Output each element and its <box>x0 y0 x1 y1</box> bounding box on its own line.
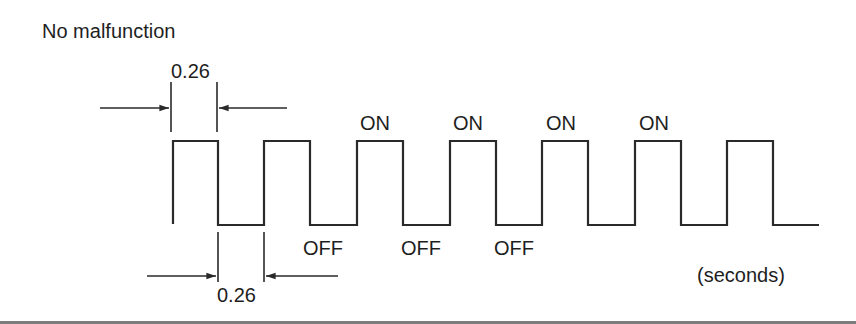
on-label: ON <box>639 113 669 133</box>
units-label: (seconds) <box>697 265 785 285</box>
off-label: OFF <box>494 238 534 258</box>
off-label: OFF <box>401 238 441 258</box>
off-label: OFF <box>303 238 343 258</box>
off-duration-label: 0.26 <box>217 285 256 305</box>
waveform-line <box>173 141 819 225</box>
on-duration-dimension <box>100 82 287 132</box>
on-duration-label: 0.26 <box>171 61 210 81</box>
on-label: ON <box>453 113 483 133</box>
on-label: ON <box>360 113 390 133</box>
on-label: ON <box>546 113 576 133</box>
